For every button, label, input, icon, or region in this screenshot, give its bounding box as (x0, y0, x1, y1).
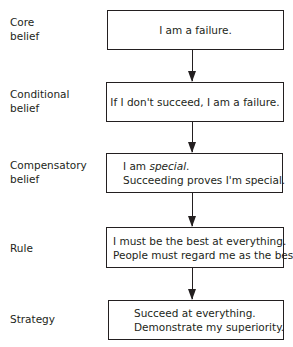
box-text: Succeed at everything. (134, 306, 256, 320)
label-line: Compensatory (10, 158, 87, 172)
label-line: Rule (10, 241, 33, 255)
label-conditional-belief: Conditional belief (10, 87, 69, 115)
label-line: belief (10, 29, 39, 43)
box-core-belief: I am a failure. (107, 10, 284, 50)
arrow-down-icon (192, 268, 193, 299)
box-compensatory-belief: I am special. Succeeding proves I'm spec… (106, 153, 283, 193)
label-line: Core (10, 15, 39, 29)
box-text: I am special. (123, 159, 189, 173)
box-text: I must be the best at everything. (113, 234, 286, 248)
label-line: belief (10, 172, 87, 186)
box-text: I am a failure. (159, 23, 232, 37)
label-compensatory-belief: Compensatory belief (10, 158, 87, 186)
label-rule: Rule (10, 241, 33, 255)
box-rule: I must be the best at everything. People… (106, 227, 284, 268)
box-text-emphasis: special (149, 160, 186, 172)
label-line: belief (10, 101, 69, 115)
box-conditional-belief: If I don't succeed, I am a failure. (106, 82, 284, 122)
box-text: If I don't succeed, I am a failure. (110, 95, 279, 109)
arrow-down-icon (192, 193, 193, 226)
label-line: Strategy (10, 312, 55, 326)
box-text: Demonstrate my superiority. (134, 320, 284, 334)
label-core-belief: Core belief (10, 15, 39, 43)
box-text-prefix: I am (123, 160, 149, 172)
box-text: People must regard me as the best. (113, 248, 293, 262)
arrow-down-icon (192, 50, 193, 81)
box-text-suffix: . (186, 160, 189, 172)
arrow-down-icon (192, 122, 193, 152)
label-line: Conditional (10, 87, 69, 101)
box-text: Succeeding proves I'm special. (123, 173, 285, 187)
box-strategy: Succeed at everything. Demonstrate my su… (108, 300, 284, 340)
label-strategy: Strategy (10, 312, 55, 326)
